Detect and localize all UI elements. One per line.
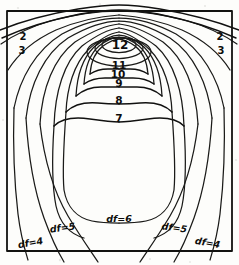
contour-plot-canvas: 2 3 2 3 12 11 10 9 8 7 df=6 df=5 df=5 df… xyxy=(0,0,239,265)
contour-label-2-right: 2 xyxy=(217,31,224,42)
contour-label-8: 8 xyxy=(115,94,122,106)
contour-label-12-peak: 12 xyxy=(112,38,129,52)
contour-label-9: 9 xyxy=(115,77,122,89)
contour-label-3-left: 3 xyxy=(19,45,26,56)
contour-label-df6: df=6 xyxy=(106,213,132,224)
contour-plot-figure: 2 3 2 3 12 11 10 9 8 7 df=6 df=5 df=5 df… xyxy=(0,0,239,265)
contour-label-7: 7 xyxy=(115,112,122,124)
contour-label-3-right: 3 xyxy=(218,45,225,56)
contour-label-2-left: 2 xyxy=(20,31,27,42)
